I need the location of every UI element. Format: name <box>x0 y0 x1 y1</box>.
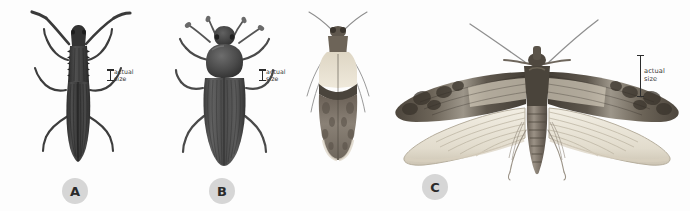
pronotum <box>206 44 243 78</box>
badge-b-letter: B <box>217 184 227 199</box>
legs-right <box>241 39 273 152</box>
figure-b-beetle <box>170 16 280 176</box>
pronotum <box>68 46 89 82</box>
scale-a: actual size <box>110 68 134 82</box>
legs-left <box>35 29 68 151</box>
badge-a: A <box>62 178 88 204</box>
wing-right-pale <box>338 52 357 88</box>
figure-c-moth-resting <box>296 8 380 172</box>
figure-a-beetle <box>24 4 144 176</box>
badge-b: B <box>209 178 235 204</box>
head <box>71 25 86 46</box>
badge-a-letter: A <box>70 184 80 199</box>
antenna-right <box>86 13 130 44</box>
antenna-left <box>32 12 69 44</box>
figure-plate: actual size A <box>0 0 690 211</box>
scale-c: actual size <box>640 55 665 97</box>
scale-b: actual size <box>262 68 286 82</box>
scale-c-bar <box>640 55 641 97</box>
legs-right <box>88 29 121 151</box>
scale-b-label: actual size <box>266 68 286 82</box>
scale-a-label: actual size <box>114 68 134 82</box>
figure-c-moth-spread <box>392 10 682 190</box>
legs-left <box>176 39 208 152</box>
badge-c-letter: C <box>430 180 440 195</box>
abdomen <box>527 106 547 174</box>
head-tuft <box>533 46 541 60</box>
scale-c-label: actual size <box>644 68 665 84</box>
scale-a-bar <box>110 69 111 81</box>
badge-c: C <box>422 174 448 200</box>
thorax <box>524 66 550 106</box>
wing-left-pale <box>319 52 338 88</box>
scale-b-bar <box>262 69 263 81</box>
